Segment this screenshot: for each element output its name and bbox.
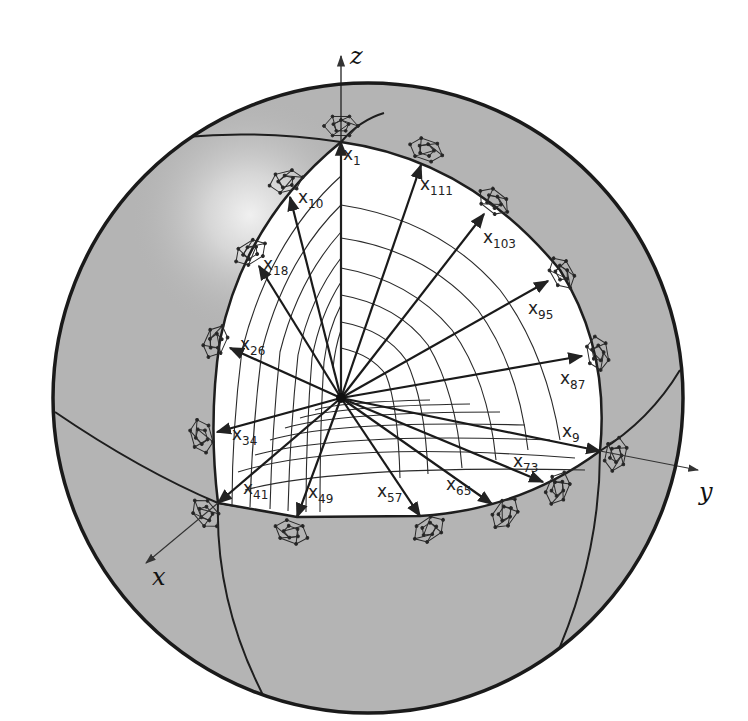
z-axis-label: z: [349, 42, 363, 70]
origin: [336, 393, 346, 403]
y-axis-label: y: [698, 478, 713, 506]
sphere-diagram: z y x x1x111x103x95x87x9x73x65x57x49x41x…: [0, 0, 748, 721]
x-axis-label: x: [152, 563, 166, 591]
